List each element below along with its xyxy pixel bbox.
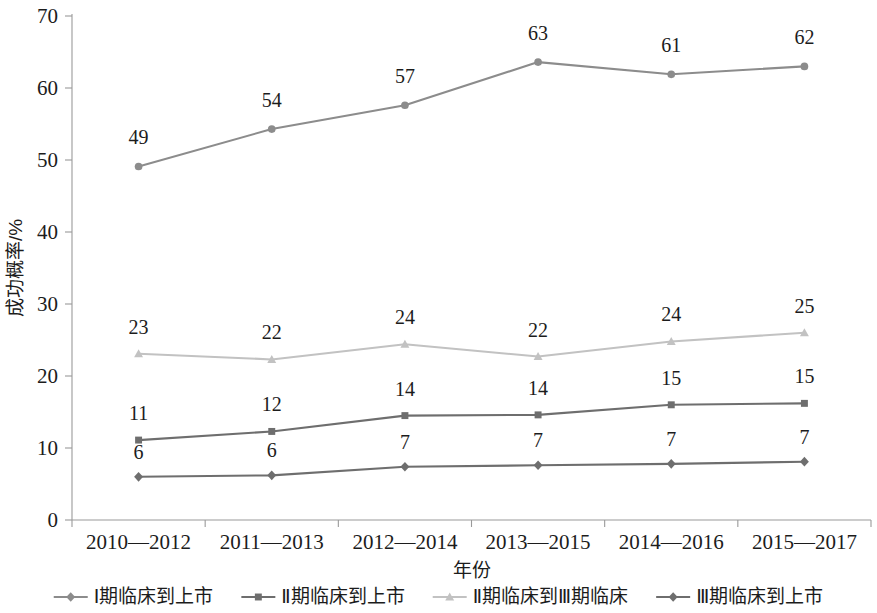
data-label: 12 [262, 393, 282, 415]
series-line [139, 462, 805, 477]
legend-item[interactable]: Ⅱ期临床到上市 [241, 586, 404, 607]
data-label: 25 [794, 295, 814, 317]
circle-marker [401, 101, 409, 109]
series-line [139, 62, 805, 166]
data-label: 14 [528, 377, 548, 399]
circle-marker [801, 63, 809, 71]
circle-marker [667, 70, 675, 78]
x-tick-label: 2010—2012 [86, 530, 191, 554]
data-label: 24 [661, 303, 681, 325]
legend-item[interactable]: Ⅰ期临床到上市 [54, 586, 214, 607]
data-label: 6 [134, 441, 144, 463]
diamond-marker [669, 592, 678, 602]
data-label: 15 [661, 367, 681, 389]
data-label: 7 [799, 426, 809, 448]
data-label: 7 [400, 431, 410, 453]
data-label: 7 [666, 428, 676, 450]
diamond-marker [534, 460, 543, 470]
line-chart: 0102030405060702010—20122011—20132012—20… [0, 0, 877, 613]
data-label: 23 [129, 316, 149, 338]
series-1: 495457636162 [129, 22, 815, 170]
diamond-marker [134, 472, 143, 482]
x-tick-label: 2011—2013 [220, 530, 324, 554]
legend-label: Ⅱ期临床到上市 [281, 586, 404, 607]
data-label: 61 [661, 34, 681, 56]
legend: Ⅰ期临床到上市Ⅱ期临床到上市Ⅱ期临床到Ⅲ期临床Ⅲ期临床到上市 [54, 586, 824, 607]
diamond-marker [667, 459, 676, 469]
data-label: 24 [395, 306, 415, 328]
data-label: 63 [528, 22, 548, 44]
square-marker [801, 400, 808, 407]
chart-canvas: 0102030405060702010—20122011—20132012—20… [0, 0, 877, 613]
square-marker [668, 401, 675, 408]
data-label: 49 [129, 126, 149, 148]
y-axis-title: 成功概率/% [5, 219, 26, 317]
x-tick-label: 2013—2015 [486, 530, 591, 554]
y-tick-label: 60 [37, 76, 58, 100]
x-tick-label: 2015—2017 [752, 530, 857, 554]
series-line [139, 403, 805, 440]
y-tick-label: 20 [37, 364, 58, 388]
series-line [139, 333, 805, 360]
square-marker [535, 411, 542, 418]
diamond-marker [400, 462, 409, 472]
series-2: 111214141515 [129, 365, 814, 443]
circle-marker [135, 163, 143, 171]
square-marker [401, 412, 408, 419]
data-label: 22 [528, 319, 548, 341]
axes: 0102030405060702010—20122011—20132012—20… [5, 4, 871, 581]
data-label: 57 [395, 65, 415, 87]
x-tick-label: 2012—2014 [352, 530, 458, 554]
circle-marker [534, 58, 542, 66]
data-label: 6 [267, 439, 277, 461]
y-tick-label: 10 [37, 436, 58, 460]
data-label: 14 [395, 378, 415, 400]
legend-item[interactable]: Ⅲ期临床到上市 [656, 586, 823, 607]
data-label: 11 [129, 402, 148, 424]
data-label: 22 [262, 321, 282, 343]
data-label: 7 [533, 429, 543, 451]
square-marker [255, 594, 262, 601]
data-label: 54 [262, 89, 282, 111]
legend-item[interactable]: Ⅱ期临床到Ⅲ期临床 [433, 586, 628, 607]
diamond-marker [800, 457, 809, 467]
x-tick-label: 2014—2016 [619, 530, 724, 554]
circle-marker [268, 125, 276, 133]
y-tick-label: 0 [48, 508, 59, 532]
y-tick-label: 30 [37, 292, 58, 316]
legend-label: Ⅰ期临床到上市 [94, 586, 214, 607]
data-label: 62 [794, 26, 814, 48]
legend-label: Ⅱ期临床到Ⅲ期临床 [473, 586, 628, 607]
diamond-marker [66, 592, 75, 602]
y-tick-label: 50 [37, 148, 58, 172]
series-3: 232224222425 [129, 295, 815, 363]
data-label: 15 [794, 365, 814, 387]
y-tick-label: 40 [37, 220, 58, 244]
diamond-marker [267, 471, 276, 481]
legend-label: Ⅲ期临床到上市 [696, 586, 823, 607]
y-tick-label: 70 [37, 4, 58, 28]
square-marker [268, 428, 275, 435]
x-axis-title: 年份 [453, 560, 491, 581]
